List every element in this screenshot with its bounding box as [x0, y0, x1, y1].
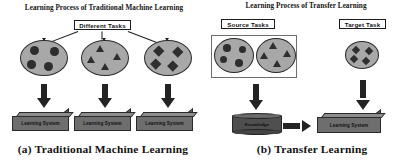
- different-tasks-label: Different Tasks: [74, 20, 131, 30]
- triangle-glyph: [283, 50, 291, 57]
- arrow-head: [249, 100, 263, 110]
- caption-b: (b)Transfer Learning: [236, 143, 388, 155]
- triangle-glyph: [87, 56, 95, 63]
- caption-a-text: Traditional Machine Learning: [35, 143, 188, 155]
- caption-b-text: Transfer Learning: [274, 143, 367, 155]
- arrow-shaft: [41, 84, 47, 98]
- caption-a-index: (a): [18, 143, 32, 155]
- circle-glyph: [239, 46, 246, 53]
- arrow-shaft: [283, 123, 300, 129]
- box-face: Learning System: [317, 117, 381, 133]
- arrow-head: [98, 98, 112, 108]
- figure-canvas: Learning Process of Traditional Machine …: [0, 0, 406, 168]
- diamond-glyph: [365, 47, 373, 55]
- learning-system-label: Learning System: [330, 123, 369, 128]
- triangle-glyph: [113, 53, 121, 60]
- learning-system-box-1: Learning System: [12, 112, 69, 131]
- arrow-shaft: [360, 80, 366, 98]
- diamond-glyph: [172, 46, 183, 57]
- box-face: Learning System: [12, 116, 69, 131]
- triangle-glyph: [260, 52, 268, 59]
- triangle-glyph: [273, 60, 281, 67]
- arrow-source-to-knowledge: [248, 84, 264, 110]
- target-task-label: Target Task: [339, 19, 386, 29]
- arrow-knowledge-to-system: [283, 119, 311, 132]
- source-task-ellipse-circles: [214, 38, 254, 73]
- arrow-head: [37, 98, 51, 108]
- task-ellipse-circles: [20, 40, 68, 76]
- arrow-shaft: [102, 84, 108, 98]
- learning-system-box-transfer: Learning System: [317, 113, 381, 133]
- target-task-ellipse-diamonds: [345, 41, 379, 69]
- box-face: Learning System: [136, 116, 193, 131]
- learning-system-label: Learning System: [145, 121, 184, 126]
- arrow-task-1-to-system-1: [36, 84, 52, 108]
- diamond-glyph: [150, 58, 161, 69]
- triangle-glyph: [96, 45, 104, 52]
- learning-system-label: Learning System: [83, 121, 122, 126]
- triangle-glyph: [269, 42, 277, 49]
- circle-glyph: [235, 59, 243, 67]
- diamond-glyph: [167, 60, 178, 71]
- diamond-glyph: [362, 57, 370, 65]
- caption-b-index: (b): [257, 143, 272, 155]
- circle-glyph: [50, 47, 59, 56]
- box-face: Learning System: [74, 116, 131, 131]
- diamond-glyph: [350, 55, 358, 63]
- panel-a-title: Learning Process of Traditional Machine …: [14, 4, 194, 12]
- arrow-head: [161, 98, 175, 108]
- learning-system-box-2: Learning System: [74, 112, 131, 131]
- diamond-glyph: [352, 46, 360, 54]
- task-ellipse-triangles: [81, 40, 129, 76]
- source-tasks-label: Source Tasks: [221, 19, 275, 29]
- diamond-glyph: [153, 45, 164, 56]
- arrow-task-2-to-system-2: [97, 84, 113, 108]
- arrow-shaft: [253, 84, 259, 100]
- arrow-head: [356, 100, 370, 110]
- knowledge-label: Knowledge: [232, 113, 282, 135]
- source-task-ellipse-triangles: [256, 38, 296, 73]
- arrow-head: [302, 120, 311, 132]
- triangle-glyph: [101, 63, 109, 70]
- arrow-target-to-system: [355, 80, 371, 110]
- panel-b-title: Learning Process of Transfer Learning: [232, 2, 380, 10]
- task-ellipse-diamonds: [144, 40, 192, 76]
- circle-glyph: [44, 62, 53, 71]
- circle-glyph: [220, 56, 227, 63]
- learning-system-label: Learning System: [21, 121, 60, 126]
- circle-glyph: [30, 46, 39, 55]
- circle-glyph: [223, 44, 231, 52]
- learning-system-box-3: Learning System: [136, 112, 193, 131]
- knowledge-cylinder: Knowledge: [232, 113, 282, 135]
- caption-a: (a)Traditional Machine Learning: [8, 143, 198, 155]
- circle-glyph: [27, 60, 36, 69]
- arrow-task-3-to-system-3: [160, 84, 176, 108]
- arrow-shaft: [165, 84, 171, 98]
